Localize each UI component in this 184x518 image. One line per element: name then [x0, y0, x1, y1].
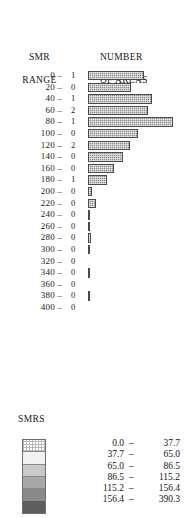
histogram-row-count-label: 0 — [66, 186, 80, 198]
legend-range-dash: – — [124, 483, 138, 494]
histogram-row-bar-container — [88, 164, 114, 173]
legend-range-high: 65.0 — [138, 449, 180, 460]
histogram-row-bar-container — [88, 141, 130, 150]
legend-range-high: 37.7 — [138, 438, 180, 449]
histogram-row-range-label: 180 – — [0, 174, 62, 186]
histogram-row-range-label: 380 – — [0, 290, 62, 302]
histogram-row: 80 –1 — [0, 116, 184, 128]
histogram-row-count-label: 0 — [66, 256, 80, 268]
histogram-row-range-label: 160 – — [0, 163, 62, 175]
smr-range-header-line1: SMR — [29, 52, 50, 62]
number-of-areas-header-line1: NUMBER — [100, 52, 143, 62]
histogram-bar — [88, 245, 90, 254]
histogram-row-count-label: 0 — [66, 267, 80, 279]
legend-swatch — [23, 465, 45, 477]
legend-range-dash: – — [124, 438, 138, 449]
legend-range-low: 65.0 — [82, 461, 124, 472]
histogram-row-count-label: 1 — [66, 70, 80, 82]
histogram-row-count-label: 1 — [66, 93, 80, 105]
histogram-row-range-label: 100 – — [0, 128, 62, 140]
histogram-row-bar-container — [88, 94, 152, 103]
histogram-bar — [88, 175, 107, 184]
histogram-row-bar-container — [88, 222, 90, 231]
legend-range-high: 390.3 — [138, 494, 180, 505]
legend-swatch — [23, 501, 45, 512]
histogram-bar — [88, 71, 144, 80]
legend-range-high: 156.4 — [138, 483, 180, 494]
legend-range-low: 156.4 — [82, 494, 124, 505]
legend-swatch — [23, 477, 45, 489]
histogram-row: 180 –1 — [0, 174, 184, 186]
histogram-row: 280 –0 — [0, 232, 184, 244]
histogram-row-range-label: 140 – — [0, 151, 62, 163]
histogram-row-bar-container — [88, 210, 90, 219]
legend-row: 86.5–115.2 — [52, 472, 180, 483]
legend-range-high: 115.2 — [138, 472, 180, 483]
histogram-row-range-label: 280 – — [0, 232, 62, 244]
histogram-row-bar-container — [88, 83, 131, 92]
histogram-row: 40 –1 — [0, 93, 184, 105]
legend-label-column: 0.0–37.737.7–65.065.0–86.586.5–115.2115.… — [52, 438, 180, 506]
legend-range-dash: – — [124, 472, 138, 483]
histogram-bar — [88, 141, 130, 150]
histogram-row-count-label: 2 — [66, 105, 80, 117]
histogram-bar — [88, 187, 92, 196]
histogram-row-range-label: 220 – — [0, 198, 62, 210]
histogram-row-bar-container — [88, 106, 148, 115]
histogram-row-range-label: 360 – — [0, 279, 62, 291]
histogram-chart: 0 –120 –040 –160 –280 –1100 –0120 –2140 … — [0, 70, 184, 313]
histogram-bar — [88, 129, 138, 138]
histogram-bar — [88, 117, 173, 126]
histogram-row: 200 –0 — [0, 186, 184, 198]
histogram-row: 300 –0 — [0, 244, 184, 256]
histogram-row-count-label: 0 — [66, 221, 80, 233]
histogram-row-bar-container — [88, 129, 138, 138]
histogram-row: 60 –2 — [0, 105, 184, 117]
histogram-row-range-label: 340 – — [0, 267, 62, 279]
histogram-row-bar-container — [88, 152, 123, 161]
histogram-row-bar-container — [88, 187, 92, 196]
histogram-row-range-label: 260 – — [0, 221, 62, 233]
histogram-row-range-label: 200 – — [0, 186, 62, 198]
histogram-row-count-label: 0 — [66, 151, 80, 163]
histogram-row-count-label: 1 — [66, 174, 80, 186]
histogram-row-count-label: 0 — [66, 82, 80, 94]
legend-range-low: 115.2 — [82, 483, 124, 494]
histogram-row-range-label: 300 – — [0, 244, 62, 256]
legend-row: 0.0–37.7 — [52, 438, 180, 449]
histogram-row-count-label: 0 — [66, 209, 80, 221]
histogram-row-bar-container — [88, 233, 91, 242]
histogram-row-count-label: 0 — [66, 302, 80, 314]
histogram-row-range-label: 0 – — [0, 70, 62, 82]
legend-swatch-column — [22, 439, 46, 514]
histogram-row: 0 –1 — [0, 70, 184, 82]
histogram-row-range-label: 60 – — [0, 105, 62, 117]
histogram-row-count-label: 0 — [66, 128, 80, 140]
legend-row: 115.2–156.4 — [52, 483, 180, 494]
legend-row: 37.7–65.0 — [52, 449, 180, 460]
histogram-row-bar-container — [88, 268, 90, 277]
histogram-row-bar-container — [88, 245, 90, 254]
histogram-row: 260 –0 — [0, 221, 184, 233]
histogram-row-range-label: 400 – — [0, 302, 62, 314]
legend-title: SMRS — [18, 414, 45, 424]
legend-range-low: 37.7 — [82, 449, 124, 460]
histogram-bar — [88, 222, 90, 231]
histogram-row: 400 –0 — [0, 302, 184, 314]
histogram-row-bar-container — [88, 291, 90, 300]
histogram-row-count-label: 0 — [66, 232, 80, 244]
histogram-row: 140 –0 — [0, 151, 184, 163]
histogram-bar — [88, 199, 96, 208]
histogram-row-range-label: 240 – — [0, 209, 62, 221]
histogram-bar — [88, 152, 123, 161]
histogram-bar — [88, 83, 131, 92]
histogram-row-count-label: 0 — [66, 290, 80, 302]
histogram-bar — [88, 291, 90, 300]
histogram-row-range-label: 80 – — [0, 116, 62, 128]
histogram-row-count-label: 0 — [66, 279, 80, 291]
legend-range-low: 86.5 — [82, 472, 124, 483]
histogram-bar — [88, 233, 91, 242]
legend-row: 65.0–86.5 — [52, 461, 180, 472]
histogram-row-count-label: 0 — [66, 198, 80, 210]
histogram-bar — [88, 106, 148, 115]
